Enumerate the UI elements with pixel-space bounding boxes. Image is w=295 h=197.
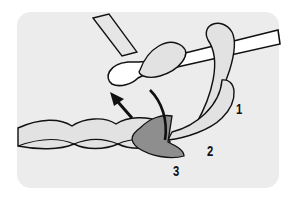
crochet-hook (108, 30, 280, 86)
crochet-illustration (0, 0, 295, 197)
yarn-over-loop (139, 42, 185, 77)
loop-1 (168, 23, 234, 140)
label-1: 1 (236, 100, 242, 117)
direction-arrow (110, 92, 132, 118)
label-2: 2 (207, 142, 213, 159)
hook-handle (93, 14, 137, 56)
label-3: 3 (173, 162, 179, 179)
